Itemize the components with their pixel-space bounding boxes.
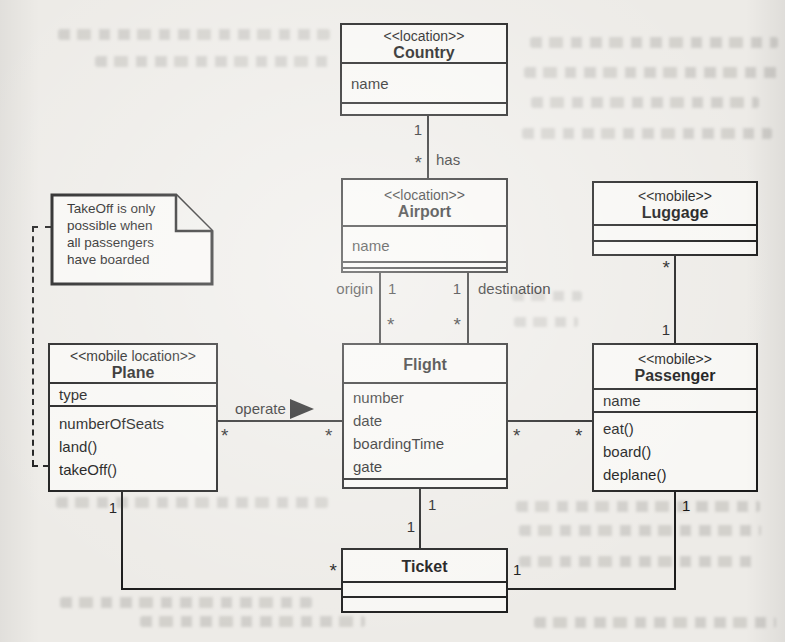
passenger-operation: deplane() (603, 463, 747, 486)
ghost-text-smudge (519, 525, 761, 536)
ghost-text-smudge (524, 67, 778, 78)
flight-class-name: Flight (346, 356, 504, 373)
scanned-textbook-page: 1 * has origin 1 1 destination * * opera… (0, 0, 785, 642)
flight-attributes-compartment: number date boardingTime gate (344, 382, 506, 478)
class-ticket: Ticket (341, 548, 508, 613)
plane-attribute: type (59, 385, 207, 405)
class-luggage: <<mobile>> Luggage (592, 181, 758, 256)
association-plane-ticket (121, 588, 342, 590)
plane-member: numberOfSeats (59, 412, 207, 435)
country-stereotype: <<location>> (344, 28, 504, 44)
ticket-class-name: Ticket (345, 558, 504, 575)
ghost-text-smudge (58, 29, 330, 40)
luggage-passenger-mult-passenger: 1 (640, 322, 670, 338)
operate-label: operate (235, 401, 286, 417)
passenger-class-name: Passenger (596, 367, 754, 384)
flight-passenger-mult-flight: * (513, 429, 520, 443)
flight-ticket-mult-ticket: 1 (396, 519, 415, 535)
note-anchor-line (32, 465, 49, 467)
ghost-text-smudge (140, 616, 365, 627)
note-anchor-line (32, 226, 51, 228)
flight-operations-compartment (344, 478, 506, 487)
origin-mult-flight: * (387, 318, 394, 332)
destination-role-label: destination (478, 281, 551, 297)
country-operations-compartment (342, 102, 506, 114)
flight-attribute: boardingTime (353, 432, 497, 455)
airport-class-name: Airport (345, 203, 504, 220)
flight-passenger-mult-passenger: * (575, 429, 582, 443)
ghost-text-smudge (519, 556, 757, 567)
destination-mult-airport: 1 (442, 281, 461, 297)
plane-class-name: Plane (52, 364, 214, 381)
plane-ticket-mult-plane: 1 (97, 500, 117, 516)
flight-attribute: date (353, 409, 497, 432)
flight-attribute: gate (353, 455, 497, 478)
class-flight: Flight number date boardingTime gate (342, 343, 508, 489)
class-plane: <<mobile location>> Plane type numberOfS… (48, 343, 218, 492)
luggage-operations-compartment (594, 240, 756, 254)
ghost-text-smudge (522, 128, 772, 139)
country-attributes-compartment: name (342, 62, 506, 102)
passenger-operation: board() (603, 440, 747, 463)
flight-ticket-mult-flight: 1 (428, 497, 436, 513)
origin-mult-airport: 1 (388, 281, 396, 297)
association-airport-flight-destination (467, 271, 469, 343)
ghost-text-smudge (60, 597, 312, 608)
passenger-operations-compartment: eat() board() deplane() (594, 411, 756, 490)
origin-role-label: origin (294, 281, 373, 297)
country-attribute: name (351, 72, 497, 95)
association-passenger-ticket (507, 588, 676, 590)
passenger-stereotype: <<mobile>> (596, 351, 754, 367)
plane-flight-mult-flight: * (325, 429, 332, 443)
airport-attributes-compartment: name (343, 225, 506, 261)
passenger-operation: eat() (603, 417, 747, 440)
plane-ticket-mult-ticket: * (317, 564, 337, 578)
ticket-attributes-compartment (343, 581, 506, 596)
association-airport-flight-origin (379, 271, 381, 343)
class-airport: <<location>> Airport name (341, 178, 508, 273)
ghost-text-smudge (534, 617, 776, 628)
country-airport-mult-country: 1 (390, 122, 422, 138)
ghost-text-smudge (531, 97, 759, 108)
flight-title-compartment: Flight (344, 345, 506, 382)
plane-flight-name-label: operate (235, 399, 314, 419)
luggage-stereotype: <<mobile>> (596, 188, 754, 204)
ghost-text-smudge (516, 501, 760, 512)
class-country: <<location>> Country name (340, 23, 508, 116)
country-airport-name: has (436, 152, 460, 168)
association-country-airport (427, 115, 429, 178)
plane-member: land() (59, 435, 207, 458)
note-anchor-line (32, 226, 34, 466)
ghost-text-smudge (514, 317, 578, 327)
passenger-ticket-mult-passenger: 1 (682, 498, 690, 514)
country-title-compartment: <<location>> Country (342, 25, 506, 62)
association-flight-passenger (507, 420, 593, 422)
country-airport-mult-airport: * (390, 156, 422, 170)
association-passenger-ticket (674, 491, 676, 590)
class-passenger: <<mobile>> Passenger name eat() board() … (592, 343, 758, 492)
plane-stereotype: <<mobile location>> (52, 348, 214, 364)
ghost-text-smudge (530, 37, 778, 48)
plane-attributes-compartment: type (50, 382, 216, 405)
association-plane-ticket (121, 491, 123, 590)
flight-attribute: number (353, 386, 497, 409)
passenger-attributes-compartment: name (594, 388, 756, 411)
airport-attribute: name (352, 234, 497, 257)
association-flight-ticket (419, 488, 421, 548)
ticket-title-compartment: Ticket (343, 550, 506, 581)
note-text: TakeOff is only possible when all passen… (67, 200, 197, 268)
plane-member: takeOff() (59, 458, 207, 481)
association-plane-flight (217, 420, 342, 422)
ghost-text-smudge (95, 56, 333, 67)
luggage-class-name: Luggage (596, 204, 754, 221)
plane-flight-mult-plane: * (221, 429, 228, 443)
destination-mult-flight: * (442, 318, 461, 332)
airport-operations-compartment (343, 267, 506, 271)
association-luggage-passenger (674, 254, 676, 343)
luggage-attributes-compartment (594, 224, 756, 240)
passenger-ticket-mult-ticket: 1 (513, 562, 521, 578)
airport-stereotype: <<location>> (345, 187, 504, 203)
luggage-title-compartment: <<mobile>> Luggage (594, 183, 756, 224)
ticket-operations-compartment (343, 596, 506, 611)
operate-direction-arrow-icon (290, 399, 314, 419)
